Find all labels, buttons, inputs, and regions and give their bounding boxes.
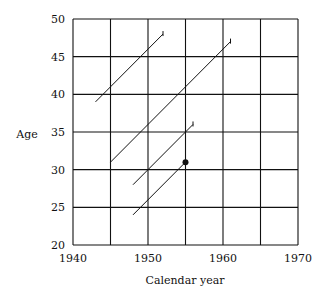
x-axis-label: Calendar year — [146, 274, 226, 287]
x-tick-labels: 1940195019601970 — [59, 252, 312, 265]
event-dot — [183, 159, 189, 165]
x-tick-label: 1960 — [209, 252, 237, 265]
y-axis-label: Age — [15, 128, 38, 141]
x-tick-label: 1950 — [134, 252, 162, 265]
y-tick-label: 35 — [51, 126, 65, 139]
life-lines — [96, 31, 231, 215]
life-line — [111, 42, 231, 163]
y-tick-labels: 20253035404550 — [51, 13, 65, 252]
x-tick-label: 1970 — [284, 252, 312, 265]
y-tick-label: 25 — [51, 201, 65, 214]
lexis-diagram: 1940195019601970 20253035404550 Calendar… — [0, 0, 322, 298]
y-tick-label: 20 — [51, 239, 65, 252]
y-tick-label: 30 — [51, 164, 65, 177]
y-tick-label: 50 — [51, 13, 65, 26]
life-line — [96, 34, 164, 102]
y-tick-label: 40 — [51, 88, 65, 101]
x-tick-label: 1940 — [59, 252, 87, 265]
life-line — [133, 124, 193, 184]
y-tick-label: 45 — [51, 51, 65, 64]
